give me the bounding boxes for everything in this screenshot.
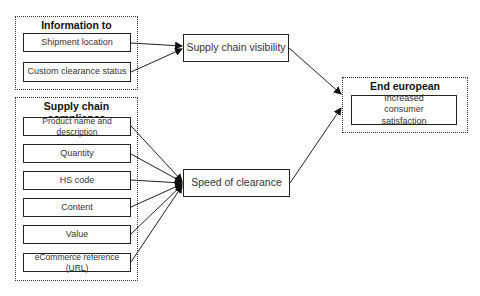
- node-content: Content: [23, 198, 131, 217]
- node-quantity: Quantity: [23, 144, 131, 163]
- node-supply-chain-visibility: Supply chain visibility: [183, 34, 289, 62]
- node-shipment-location: Shipment location: [23, 33, 131, 52]
- node-value: Value: [23, 225, 131, 244]
- node-product-name: Product name and description: [23, 117, 131, 136]
- node-increased-consumer-satisfaction: Increased consumer satisfaction: [351, 95, 457, 125]
- node-speed-of-clearance: Speed of clearance: [183, 169, 290, 197]
- node-custom-clearance-status: Custom clearance status: [23, 62, 131, 82]
- node-hs-code: HS code: [23, 171, 131, 190]
- node-ecommerce-reference: eCommerce reference (URL): [23, 253, 131, 272]
